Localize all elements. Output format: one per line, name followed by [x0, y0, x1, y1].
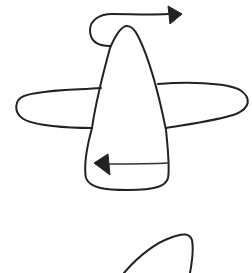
arrow-right-icon — [168, 6, 182, 24]
left-wing — [16, 88, 101, 128]
right-wing — [158, 83, 248, 128]
airplane-sketch — [0, 0, 252, 273]
arrow-left-icon — [94, 154, 110, 175]
sketch-canvas — [0, 0, 252, 273]
partial-bottom-shape — [124, 234, 193, 273]
top-arrow-path — [90, 14, 168, 46]
bottom-arrow-path — [108, 163, 168, 164]
